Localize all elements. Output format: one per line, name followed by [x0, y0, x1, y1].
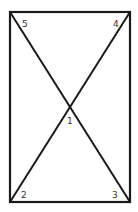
label-3: 3: [112, 190, 118, 200]
label-5: 5: [22, 19, 28, 29]
label-4: 4: [113, 19, 119, 29]
label-1: 1: [67, 116, 73, 126]
label-2: 2: [21, 190, 27, 200]
rectangle-diagonals-diagram: 1 2 3 4 5: [0, 0, 138, 212]
